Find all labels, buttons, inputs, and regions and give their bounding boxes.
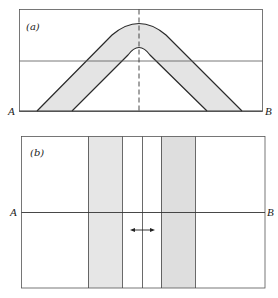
shaded-band-right [161, 136, 195, 288]
panel-b [22, 136, 266, 288]
fold-band [37, 24, 242, 112]
shaded-band-left [88, 136, 122, 288]
panel-a [20, 10, 263, 112]
panel-a-label: (a) [26, 22, 40, 32]
point-b-bottom: B [267, 207, 274, 218]
point-a-bottom: A [10, 207, 17, 218]
point-b-top: B [265, 106, 272, 117]
point-a-top: A [8, 106, 15, 117]
panel-b-label: (b) [30, 148, 44, 158]
